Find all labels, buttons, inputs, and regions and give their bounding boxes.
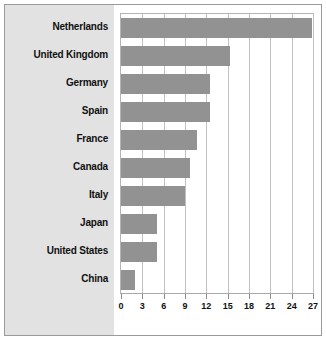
category-label: United Kingdom [5, 41, 108, 69]
category-label: United States [5, 237, 108, 265]
category-axis-panel: NetherlandsUnited KingdomGermanySpainFra… [5, 5, 114, 335]
bar-row [121, 154, 313, 182]
plot-area [120, 13, 314, 293]
bar-row [121, 266, 313, 294]
x-axis-tick-label: 3 [140, 301, 145, 311]
x-axis-tick [185, 294, 186, 299]
bar [121, 186, 185, 206]
bar-series [121, 14, 313, 293]
category-label: Canada [5, 153, 108, 181]
category-label: Netherlands [5, 13, 108, 41]
bar [121, 74, 210, 94]
bar-row [121, 70, 313, 98]
x-axis-tick-label: 15 [223, 301, 233, 311]
x-axis-tick-label: 27 [308, 301, 318, 311]
bar-row [121, 14, 313, 42]
category-label: Japan [5, 209, 108, 237]
x-axis-tick [164, 294, 165, 299]
bar-row [121, 98, 313, 126]
bar-row [121, 126, 313, 154]
bar [121, 270, 135, 290]
x-axis-tick-label: 18 [244, 301, 254, 311]
bar-row [121, 182, 313, 210]
bar [121, 158, 190, 178]
x-axis-tick [121, 294, 122, 299]
gridline [313, 14, 314, 293]
bar [121, 242, 157, 262]
chart-frame: NetherlandsUnited KingdomGermanySpainFra… [4, 4, 322, 336]
x-axis-tick [206, 294, 207, 299]
x-axis-tick-marks [120, 294, 314, 299]
x-axis-tick [228, 294, 229, 299]
x-axis-tick [249, 294, 250, 299]
x-axis-tick-label: 24 [287, 301, 297, 311]
bar [121, 18, 312, 38]
x-axis-tick [313, 294, 314, 299]
x-axis-tick-label: 6 [161, 301, 166, 311]
bar-row [121, 210, 313, 238]
bar [121, 130, 197, 150]
chart-figure: NetherlandsUnited KingdomGermanySpainFra… [0, 0, 326, 340]
category-label-list: NetherlandsUnited KingdomGermanySpainFra… [5, 13, 108, 293]
x-axis-tick-label: 21 [265, 301, 275, 311]
x-axis-tick [292, 294, 293, 299]
category-label: China [5, 265, 108, 293]
x-axis-tick-label: 12 [201, 301, 211, 311]
bar [121, 46, 230, 66]
x-axis-tick [142, 294, 143, 299]
category-label: France [5, 125, 108, 153]
category-label: Spain [5, 97, 108, 125]
bar-row [121, 238, 313, 266]
x-axis-tick [270, 294, 271, 299]
bar [121, 102, 210, 122]
bar [121, 214, 157, 234]
bar-row [121, 42, 313, 70]
x-axis-tick-label: 9 [182, 301, 187, 311]
x-axis-tick-label: 0 [118, 301, 123, 311]
category-label: Italy [5, 181, 108, 209]
x-axis-tick-labels: 0369121518212427 [120, 301, 314, 315]
category-label: Germany [5, 69, 108, 97]
